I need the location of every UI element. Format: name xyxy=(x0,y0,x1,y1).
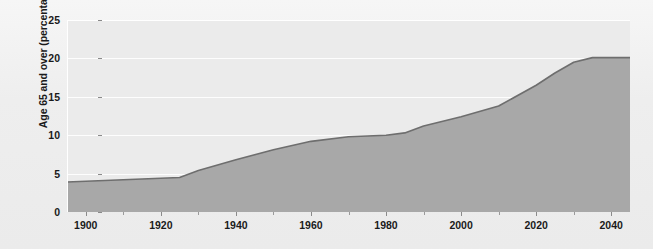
y-axis-ticks: 0510152025 xyxy=(36,0,60,249)
y-tick-mark xyxy=(98,97,102,98)
y-tick-mark xyxy=(98,135,102,136)
y-tick-label: 25 xyxy=(38,14,60,26)
x-tick-mark xyxy=(236,212,237,216)
x-tick-minor-mark xyxy=(349,212,350,215)
x-tick-mark xyxy=(311,212,312,216)
chart-figure: Age 65 and over (percentage) 0510152025 … xyxy=(0,0,653,249)
x-tick-minor-mark xyxy=(499,212,500,215)
x-tick-label: 1900 xyxy=(63,219,109,231)
series-area-chart xyxy=(67,20,630,212)
x-tick-minor-mark xyxy=(123,212,124,215)
x-tick-minor-mark xyxy=(424,212,425,215)
y-tick-label: 15 xyxy=(38,91,60,103)
x-tick-label: 2000 xyxy=(438,219,484,231)
x-tick-label: 1940 xyxy=(213,219,259,231)
y-tick-label: 0 xyxy=(38,206,60,218)
series-fill-path xyxy=(67,58,630,212)
x-tick-minor-mark xyxy=(198,212,199,215)
y-tick-label: 5 xyxy=(38,168,60,180)
x-tick-minor-mark xyxy=(273,212,274,215)
x-tick-mark xyxy=(461,212,462,216)
x-tick-mark xyxy=(611,212,612,216)
x-tick-label: 2020 xyxy=(513,219,559,231)
chart-figure-inner: Age 65 and over (percentage) 0510152025 … xyxy=(0,0,653,249)
x-tick-label: 1960 xyxy=(288,219,334,231)
x-tick-mark xyxy=(161,212,162,216)
x-tick-minor-mark xyxy=(574,212,575,215)
y-tick-mark xyxy=(98,174,102,175)
plot-area xyxy=(67,20,630,212)
plot-left-spine xyxy=(67,20,68,212)
x-tick-label: 2040 xyxy=(588,219,634,231)
x-tick-mark xyxy=(536,212,537,216)
y-tick-mark xyxy=(98,212,102,213)
y-tick-mark xyxy=(98,20,102,21)
y-tick-mark xyxy=(98,58,102,59)
x-tick-mark xyxy=(86,212,87,216)
x-tick-mark xyxy=(386,212,387,216)
x-tick-label: 1920 xyxy=(138,219,184,231)
y-tick-label: 20 xyxy=(38,52,60,64)
y-tick-label: 10 xyxy=(38,129,60,141)
plot-top-spine xyxy=(67,20,630,21)
x-tick-label: 1980 xyxy=(363,219,409,231)
